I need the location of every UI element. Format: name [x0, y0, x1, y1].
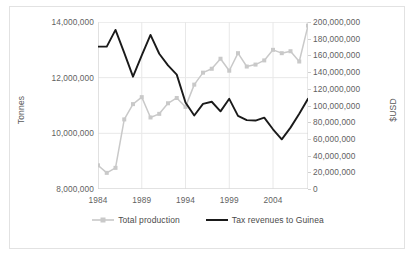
legend-swatch-line-marker-icon — [92, 216, 114, 224]
y-axis-right-tick: 20,000,000 — [313, 167, 375, 177]
y-axis-left-tick: 8,000,000 — [32, 184, 94, 194]
y-axis-right-tick-mark — [308, 72, 311, 73]
legend-label-total-production: Total production — [118, 215, 180, 225]
y-axis-right-tick: 200,000,000 — [313, 17, 375, 27]
chart-svg — [98, 22, 308, 189]
x-axis-tick: 1989 — [122, 195, 162, 205]
y-axis-right-tick-mark — [308, 139, 311, 140]
legend-label-tax-revenues: Tax revenues to Guinea — [232, 215, 324, 225]
y-axis-right-tick-mark — [308, 89, 311, 90]
y-axis-right-tick: 180,000,000 — [313, 34, 375, 44]
x-axis-tick: 1999 — [209, 195, 249, 205]
y-axis-right-tick-mark — [308, 39, 311, 40]
y-axis-right-tick: 120,000,000 — [313, 84, 375, 94]
y-axis-right-tick-mark — [308, 156, 311, 157]
y-axis-left-tick: 10,000,000 — [32, 128, 94, 138]
y-axis-right-tick: 140,000,000 — [313, 67, 375, 77]
chart-container: Tonnes $USD 8,000,00010,000,00012,000,00… — [9, 6, 405, 249]
y-axis-right-tick-mark — [308, 106, 311, 107]
chart-legend: Total production Tax revenues to Guinea — [10, 215, 406, 225]
x-axis-tick: 2004 — [253, 195, 293, 205]
y-axis-left-tick: 14,000,000 — [32, 17, 94, 27]
legend-item-total-production[interactable]: Total production — [92, 215, 180, 225]
x-axis-tick: 1994 — [166, 195, 206, 205]
y-axis-left-tick: 12,000,000 — [32, 73, 94, 83]
y-axis-right-tick: 80,000,000 — [313, 117, 375, 127]
y-axis-right-tick-mark — [308, 172, 311, 173]
y-axis-right-tick: 40,000,000 — [313, 151, 375, 161]
x-axis-tick: 1984 — [78, 195, 118, 205]
y-axis-right-tick: 100,000,000 — [313, 101, 375, 111]
y-axis-right-tick-mark — [308, 189, 311, 190]
legend-swatch-line-solid-icon — [206, 216, 228, 224]
plot-area — [98, 22, 308, 189]
y-axis-right-tick: 0 — [313, 184, 375, 194]
y-axis-right-tick: 160,000,000 — [313, 50, 375, 60]
y-axis-right-tick-mark — [308, 22, 311, 23]
y-axis-right-tick: 60,000,000 — [313, 134, 375, 144]
y-axis-left-title: Tonnes — [16, 80, 26, 140]
y-axis-right-tick-mark — [308, 55, 311, 56]
y-axis-right-title: $USD — [388, 80, 398, 140]
y-axis-right-tick-mark — [308, 122, 311, 123]
legend-item-tax-revenues[interactable]: Tax revenues to Guinea — [206, 215, 324, 225]
